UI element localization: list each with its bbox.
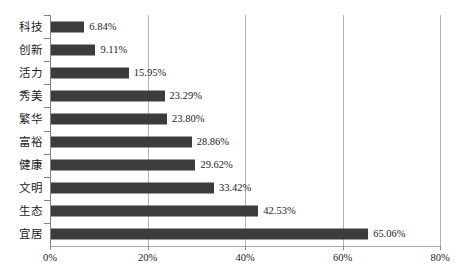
- bar-row: 宜居65.06%: [0, 223, 463, 246]
- bar: [51, 206, 258, 217]
- category-label: 繁华: [0, 112, 42, 125]
- value-label: 29.62%: [200, 159, 232, 171]
- value-label: 6.84%: [89, 21, 116, 33]
- bar-rows: 科技6.84%创新9.11%活力15.95%秀美23.29%繁华23.80%富裕…: [0, 15, 463, 246]
- bar-row: 科技6.84%: [0, 15, 463, 38]
- bar: [51, 21, 84, 32]
- category-label: 宜居: [0, 228, 42, 241]
- horizontal-bar-chart: 科技6.84%创新9.11%活力15.95%秀美23.29%繁华23.80%富裕…: [0, 0, 463, 277]
- y-axis-tick: [44, 154, 50, 155]
- bar-row: 健康29.62%: [0, 154, 463, 177]
- value-label: 65.06%: [373, 228, 405, 240]
- x-axis-tick-label: 60%: [333, 252, 352, 264]
- bar-row: 创新9.11%: [0, 38, 463, 61]
- bar-row: 繁华23.80%: [0, 107, 463, 130]
- category-label: 生态: [0, 205, 42, 218]
- x-axis-tick-label: 80%: [430, 252, 449, 264]
- bar: [51, 137, 192, 148]
- y-axis-tick: [44, 15, 50, 16]
- y-axis-tick: [44, 200, 50, 201]
- category-label: 健康: [0, 159, 42, 172]
- value-label: 23.29%: [170, 90, 202, 102]
- x-axis-tick-label: 0%: [43, 252, 57, 264]
- value-label: 15.95%: [134, 67, 166, 79]
- bar-row: 秀美23.29%: [0, 84, 463, 107]
- bar: [51, 90, 165, 101]
- x-axis-tick-mark: [343, 246, 344, 250]
- y-axis-tick: [44, 223, 50, 224]
- bar-row: 生态42.53%: [0, 200, 463, 223]
- x-axis-tick-label: 20%: [138, 252, 157, 264]
- y-axis-tick: [44, 61, 50, 62]
- category-label: 文明: [0, 182, 42, 195]
- bar: [51, 44, 95, 55]
- value-label: 23.80%: [172, 113, 204, 125]
- y-axis-tick: [44, 84, 50, 85]
- category-label: 秀美: [0, 89, 42, 102]
- x-axis-tick-mark: [50, 246, 51, 250]
- category-label: 科技: [0, 20, 42, 33]
- value-label: 28.86%: [197, 136, 229, 148]
- bar-row: 文明33.42%: [0, 177, 463, 200]
- bar: [51, 113, 167, 124]
- y-axis-tick: [44, 177, 50, 178]
- bar: [51, 160, 195, 171]
- bar: [51, 67, 129, 78]
- bar: [51, 183, 214, 194]
- x-axis-ticks: 0%20%40%60%80%: [0, 246, 463, 277]
- y-axis-tick: [44, 107, 50, 108]
- x-axis-tick-mark: [148, 246, 149, 250]
- value-label: 42.53%: [263, 205, 295, 217]
- bar-row: 富裕28.86%: [0, 131, 463, 154]
- x-axis-tick-mark: [440, 246, 441, 250]
- category-label: 活力: [0, 66, 42, 79]
- x-axis-tick-label: 40%: [235, 252, 254, 264]
- x-axis-tick-mark: [245, 246, 246, 250]
- bar-row: 活力15.95%: [0, 61, 463, 84]
- category-label: 创新: [0, 43, 42, 56]
- category-label: 富裕: [0, 136, 42, 149]
- bar: [51, 229, 368, 240]
- value-label: 9.11%: [100, 44, 127, 56]
- y-axis-tick: [44, 38, 50, 39]
- value-label: 33.42%: [219, 182, 251, 194]
- y-axis-tick: [44, 131, 50, 132]
